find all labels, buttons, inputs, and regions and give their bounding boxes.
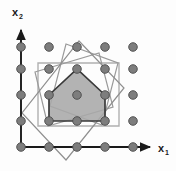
lattice-point (17, 43, 26, 52)
x-axis-label-subscript: 1 (165, 149, 169, 156)
lattice-point (45, 65, 54, 74)
lattice-point (17, 143, 26, 152)
lattice-point (73, 143, 82, 152)
lattice-point (73, 117, 82, 126)
lattice-point (129, 43, 138, 52)
lattice-point (73, 65, 82, 74)
y-axis-label: x (12, 6, 19, 18)
x-axis-label: x (158, 142, 165, 154)
lattice-point (45, 117, 54, 126)
lattice-point (17, 117, 26, 126)
lattice-point (129, 91, 138, 100)
y-axis-label-subscript: 2 (19, 13, 23, 20)
lattice-point (101, 91, 110, 100)
lattice-point (101, 43, 110, 52)
lattice-figure: x 1 x 2 (0, 0, 176, 171)
lattice-point (129, 143, 138, 152)
lattice-point (129, 117, 138, 126)
lattice-point (101, 143, 110, 152)
lattice-point (45, 91, 54, 100)
lattice-point (45, 143, 54, 152)
lattice-point (17, 91, 26, 100)
lattice-point (101, 117, 110, 126)
lattice-point (129, 65, 138, 74)
lattice-point (45, 43, 54, 52)
lattice-point (73, 43, 82, 52)
lattice-point (17, 65, 26, 74)
lattice-point (101, 65, 110, 74)
figure-container: x 1 x 2 (0, 0, 176, 171)
lattice-point (73, 91, 82, 100)
